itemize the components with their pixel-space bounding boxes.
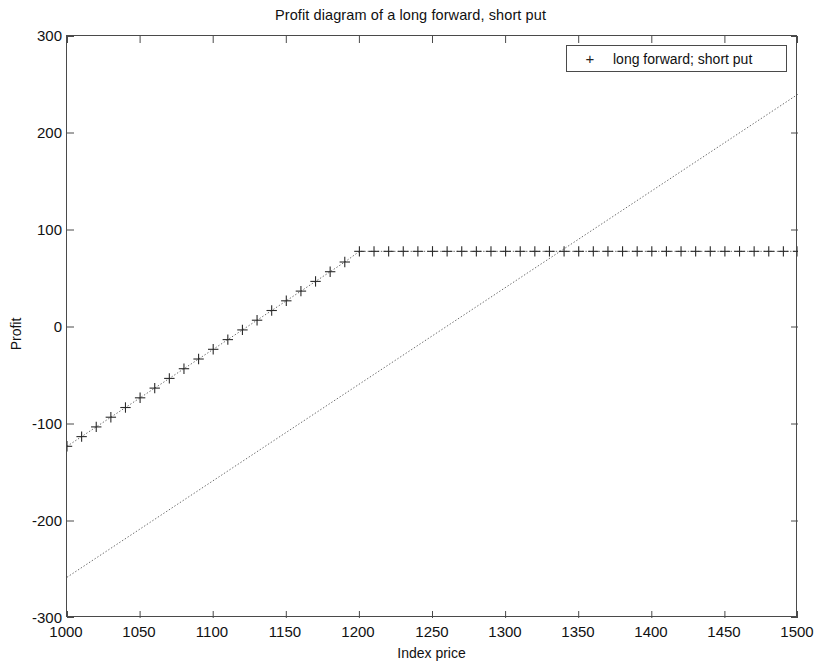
data-point-marker bbox=[515, 246, 525, 256]
data-point-marker bbox=[150, 383, 160, 393]
data-point-marker bbox=[266, 305, 276, 315]
chart-title: Profit diagram of a long forward, short … bbox=[0, 7, 821, 23]
figure-canvas: Profit diagram of a long forward, short … bbox=[0, 0, 821, 663]
data-point-marker bbox=[193, 354, 203, 364]
data-point-marker bbox=[734, 246, 744, 256]
x-tick-label: 1000 bbox=[26, 623, 106, 640]
data-point-marker bbox=[237, 325, 247, 335]
y-tick-label: -100 bbox=[4, 415, 62, 432]
data-point-marker bbox=[457, 246, 467, 256]
data-point-marker bbox=[76, 431, 86, 441]
data-point-marker bbox=[793, 246, 798, 256]
data-point-marker bbox=[574, 246, 584, 256]
x-tick-label: 1200 bbox=[318, 623, 398, 640]
data-point-marker bbox=[647, 246, 657, 256]
data-point-marker bbox=[413, 246, 423, 256]
data-point-marker bbox=[544, 246, 554, 256]
data-point-marker bbox=[296, 286, 306, 296]
data-point-marker bbox=[749, 246, 759, 256]
data-point-marker bbox=[661, 246, 671, 256]
data-point-marker bbox=[354, 246, 364, 256]
x-tick-label: 1050 bbox=[99, 623, 179, 640]
data-point-marker bbox=[705, 246, 715, 256]
legend-box[interactable]: + long forward; short put bbox=[566, 45, 787, 72]
data-point-marker bbox=[720, 246, 730, 256]
series-markers bbox=[67, 246, 798, 451]
data-point-marker bbox=[135, 393, 145, 403]
series-line bbox=[67, 251, 798, 446]
data-point-marker bbox=[223, 334, 233, 344]
data-point-marker bbox=[471, 246, 481, 256]
data-point-marker bbox=[764, 246, 774, 256]
data-point-marker bbox=[617, 246, 627, 256]
x-tick-label: 1300 bbox=[465, 623, 545, 640]
data-point-marker bbox=[676, 246, 686, 256]
data-point-marker bbox=[67, 441, 72, 451]
y-tick-label: 200 bbox=[4, 124, 62, 141]
data-point-marker bbox=[164, 373, 174, 383]
data-point-marker bbox=[442, 246, 452, 256]
data-point-marker bbox=[530, 246, 540, 256]
series-layer bbox=[67, 94, 798, 577]
data-point-marker bbox=[559, 246, 569, 256]
legend-entry-label: long forward; short put bbox=[613, 51, 752, 67]
data-point-marker bbox=[690, 246, 700, 256]
data-point-marker bbox=[340, 257, 350, 267]
data-point-marker bbox=[281, 296, 291, 306]
data-point-marker bbox=[208, 344, 218, 354]
x-tick-label: 1250 bbox=[392, 623, 472, 640]
x-tick-label: 1350 bbox=[538, 623, 618, 640]
data-point-marker bbox=[179, 364, 189, 374]
axis-ticks bbox=[67, 36, 798, 618]
x-tick-label: 1400 bbox=[611, 623, 691, 640]
x-tick-label: 1150 bbox=[245, 623, 325, 640]
x-axis-label: Index price bbox=[66, 645, 797, 661]
data-point-marker bbox=[106, 412, 116, 422]
data-point-marker bbox=[588, 246, 598, 256]
y-tick-label: 100 bbox=[4, 221, 62, 238]
data-point-marker bbox=[778, 246, 788, 256]
data-point-marker bbox=[120, 402, 130, 412]
x-tick-label: 1450 bbox=[684, 623, 764, 640]
y-tick-label: 0 bbox=[4, 318, 62, 335]
plot-area bbox=[66, 35, 797, 617]
data-point-marker bbox=[383, 246, 393, 256]
x-tick-label: 1100 bbox=[172, 623, 252, 640]
data-point-marker bbox=[427, 246, 437, 256]
series-line bbox=[67, 94, 798, 577]
data-point-marker bbox=[325, 267, 335, 277]
y-axis-tick-labels: 300 200 100 0 -100 -200 -300 bbox=[0, 0, 62, 663]
data-point-marker bbox=[603, 246, 613, 256]
data-point-marker bbox=[369, 246, 379, 256]
data-point-marker bbox=[486, 246, 496, 256]
data-point-marker bbox=[310, 276, 320, 286]
data-point-marker bbox=[252, 315, 262, 325]
data-point-marker bbox=[398, 246, 408, 256]
data-point-marker bbox=[632, 246, 642, 256]
y-tick-label: -200 bbox=[4, 512, 62, 529]
data-point-marker bbox=[91, 422, 101, 432]
plot-svg bbox=[67, 36, 798, 618]
legend-plus-icon: + bbox=[567, 51, 613, 66]
data-point-marker bbox=[500, 246, 510, 256]
x-tick-label: 1500 bbox=[757, 623, 821, 640]
y-tick-label: 300 bbox=[4, 27, 62, 44]
